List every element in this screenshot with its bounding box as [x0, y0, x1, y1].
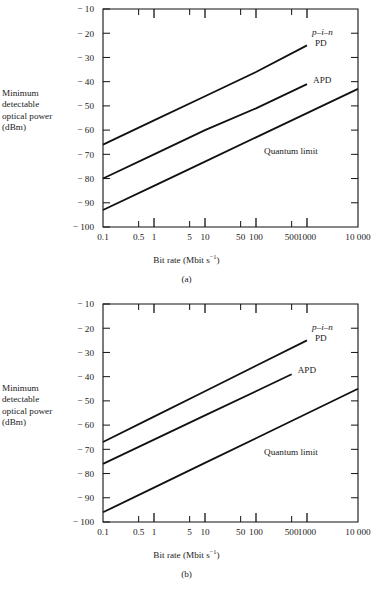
x-tick-label: 1 — [152, 527, 157, 537]
series-group-a — [103, 45, 358, 210]
y-tick-label: − 60 — [77, 420, 94, 430]
figure-panel-a: Minimum detectable optical power (dBm) −… — [0, 0, 373, 294]
y-tick-label: − 20 — [77, 29, 94, 39]
x-tick-label: 50 — [236, 232, 246, 242]
plot-area-b: − 10− 20− 30− 40− 50− 60− 70− 80− 90− 10… — [0, 295, 373, 543]
y-tick-label: − 10 — [77, 299, 94, 309]
x-axis-title-exponent-a: −1 — [210, 253, 217, 260]
x-tick-label: 500 — [285, 232, 299, 242]
x-axis-title-text-a: Bit rate (Mbit s — [153, 255, 209, 265]
annotation-group-a: p–i–nPDAPDQuantum limit — [264, 27, 333, 156]
x-tick-label: 0.5 — [133, 527, 145, 537]
y-tick-label: − 30 — [77, 348, 94, 358]
curve-label-pin-pd: PD — [315, 38, 327, 48]
y-tick-label: − 30 — [77, 53, 94, 63]
curve-label-pin-pd: PD — [315, 333, 327, 343]
y-tick-label: − 90 — [77, 493, 94, 503]
curve-label-apd: APD — [298, 365, 317, 375]
panel-caption-b: (b) — [0, 569, 373, 579]
curve-label-pin-italic: p–i–n — [311, 322, 333, 332]
x-tick-label: 10 — [200, 527, 210, 537]
y-tick-label: − 100 — [73, 517, 95, 527]
x-axis-title-a: Bit rate (Mbit s−1) — [0, 253, 373, 265]
curve-label-quantum-limit: Quantum limit — [264, 146, 318, 156]
figure-panel-b: Minimum detectable optical power (dBm) −… — [0, 295, 373, 589]
chart-svg-a: − 10− 20− 30− 40− 50− 60− 70− 80− 90− 10… — [0, 0, 373, 248]
chart-svg-b: − 10− 20− 30− 40− 50− 60− 70− 80− 90− 10… — [0, 295, 373, 543]
y-tick-label-group-a: − 10− 20− 30− 40− 50− 60− 70− 80− 90− 10… — [73, 4, 95, 232]
x-axis-title-text-b: Bit rate (Mbit s — [153, 550, 209, 560]
x-axis-title-paren-a: ) — [217, 255, 220, 265]
x-tick-label: 500 — [285, 527, 299, 537]
y-tick-label: − 40 — [77, 77, 94, 87]
x-axis-title-b: Bit rate (Mbit s−1) — [0, 548, 373, 560]
y-tick-label: − 90 — [77, 198, 94, 208]
y-tick-label: − 80 — [77, 469, 94, 479]
x-tick-label: 0.1 — [97, 527, 109, 537]
y-tick-label: − 40 — [77, 372, 94, 382]
y-tick-label: − 100 — [73, 222, 95, 232]
x-tick-label: 0.1 — [97, 232, 109, 242]
x-tick-label: 10 — [200, 232, 210, 242]
panel-caption-a: (a) — [0, 274, 373, 284]
series-line — [103, 340, 307, 442]
y-tick-label: − 80 — [77, 174, 94, 184]
annotation-group-b: p–i–nPDAPDQuantum limit — [264, 322, 333, 457]
plot-area-a: − 10− 20− 30− 40− 50− 60− 70− 80− 90− 10… — [0, 0, 373, 248]
x-tick-label-group-a: 0.10.5151050100500100010 000 — [97, 232, 371, 242]
y-tick-label: − 70 — [77, 445, 94, 455]
y-tick-label: − 10 — [77, 4, 94, 14]
y-tick-label-group-b: − 10− 20− 30− 40− 50− 60− 70− 80− 90− 10… — [73, 299, 95, 527]
x-tick-label: 1 — [152, 232, 157, 242]
y-tick-label: − 20 — [77, 324, 94, 334]
curve-label-apd: APD — [313, 75, 332, 85]
series-line — [103, 89, 358, 210]
y-tick-label: − 60 — [77, 125, 94, 135]
x-tick-label: 0.5 — [133, 232, 145, 242]
series-group-b — [103, 340, 358, 512]
x-tick-group-a — [139, 9, 307, 227]
x-tick-label: 1000 — [298, 232, 317, 242]
x-tick-label: 10 000 — [345, 232, 371, 242]
x-tick-label: 100 — [249, 527, 263, 537]
x-tick-label: 5 — [187, 232, 192, 242]
x-tick-label: 100 — [249, 232, 263, 242]
x-axis-title-exponent-b: −1 — [210, 548, 217, 555]
series-line — [103, 389, 358, 513]
x-tick-label-group-b: 0.10.5151050100500100010 000 — [97, 527, 371, 537]
curve-label-pin-italic: p–i–n — [311, 27, 333, 37]
y-tick-label: − 50 — [77, 101, 94, 111]
y-tick-label: − 70 — [77, 150, 94, 160]
x-tick-label: 1000 — [298, 527, 317, 537]
x-tick-group-b — [139, 304, 307, 522]
x-tick-label: 50 — [236, 527, 246, 537]
series-line — [103, 84, 307, 178]
y-tick-label: − 50 — [77, 396, 94, 406]
curve-label-quantum-limit: Quantum limit — [264, 447, 318, 457]
x-axis-title-paren-b: ) — [217, 550, 220, 560]
x-tick-label: 10 000 — [345, 527, 371, 537]
x-tick-label: 5 — [187, 527, 192, 537]
